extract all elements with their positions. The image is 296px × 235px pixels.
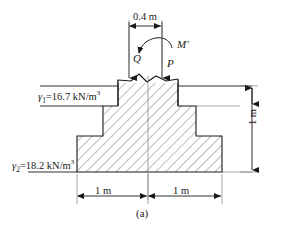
gamma-value-1: 16.7	[52, 91, 70, 102]
load-label-P: P	[167, 57, 174, 69]
dimension-label-width-right: 1 m	[173, 185, 189, 196]
soil-layer-1-label: γ1=16.7 kN/m3	[38, 89, 100, 105]
gamma-unit-exp-2: 3	[71, 158, 75, 166]
load-label-M: M′	[177, 38, 189, 50]
soil-layer-2-label: γ2=18.2 kN/m3	[12, 158, 74, 174]
dimension-label-height: 1 m	[247, 109, 258, 125]
gamma-unit-exp-1: 3	[97, 89, 101, 97]
figure-page: γ1=16.7 kN/m3 γ2=18.2 kN/m3 0.4 m Q P M′…	[0, 0, 296, 235]
gamma-unit-1: kN/m	[73, 91, 97, 102]
dimension-label-top: 0.4 m	[133, 11, 157, 22]
dimension-label-width-left: 1 m	[95, 185, 111, 196]
gamma-value-2: 18.2	[26, 160, 44, 171]
moment-arrow-M	[139, 38, 172, 53]
load-label-Q: Q	[133, 52, 141, 64]
gamma-unit-2: kN/m	[47, 160, 71, 171]
figure-caption: (a)	[136, 207, 148, 219]
